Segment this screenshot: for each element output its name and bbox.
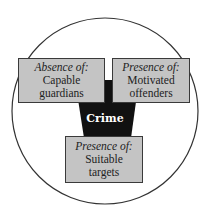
crime-label: Crime — [80, 112, 130, 125]
box-line: targets — [89, 166, 119, 179]
box-suitable-targets: Presence of: Suitable targets — [65, 136, 143, 183]
box-motivated-offenders: Presence of: Motivated offenders — [112, 58, 190, 103]
box-heading: Presence of: — [122, 61, 179, 74]
box-capable-guardians: Absence of: Capable guardians — [18, 58, 105, 103]
box-line: Suitable — [85, 153, 123, 166]
box-line: Capable — [43, 74, 81, 87]
diagram-shapes — [0, 0, 206, 217]
box-heading: Absence of: — [35, 61, 89, 74]
box-line: guardians — [39, 87, 84, 100]
box-line: Motivated — [127, 74, 174, 87]
box-line: offenders — [129, 87, 172, 100]
box-heading: Presence of: — [75, 140, 132, 153]
